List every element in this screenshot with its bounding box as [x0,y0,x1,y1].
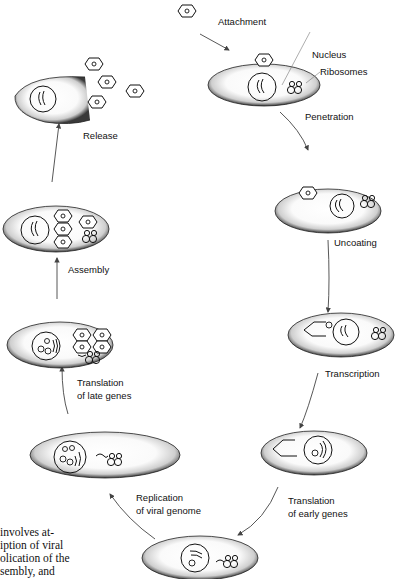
caption-line: sembly, and [0,565,70,578]
label-attachment: Attachment [218,16,266,28]
label-assembly: Assembly [68,264,109,276]
label-uncoating: Uncoating [334,237,377,249]
label-release: Release [83,130,118,142]
cell-late-translation [7,322,113,368]
cycle-diagram [0,0,401,579]
cell-assembly [3,206,109,252]
label-penetration: Penetration [305,111,354,123]
cell-uncoating [288,313,394,357]
cell-early-translation [142,536,258,579]
cell-replication [30,432,180,478]
cell-release [15,58,144,124]
label-translation-late-2: of late genes [77,390,131,402]
label-translation-early-2: of early genes [288,508,348,520]
label-translation-early-1: Translation [288,495,335,507]
label-nucleus: Nucleus [312,49,346,61]
label-translation-late-1: Translation [77,377,124,389]
caption-line: iption of viral [0,539,70,552]
cell-attachment [208,32,320,106]
cell-transcription [261,431,367,475]
label-ribosomes: Ribosomes [320,66,368,78]
caption-line: involves at- [0,526,70,539]
label-replication-2: of viral genome [136,505,201,517]
cell-penetration [275,187,381,233]
label-transcription: Transcription [325,368,380,380]
free-virion-icon [178,5,196,17]
label-replication-1: Replication [136,492,183,504]
figure-caption: involves at- iption of viral olication o… [0,526,70,578]
caption-line: olication of the [0,552,70,565]
